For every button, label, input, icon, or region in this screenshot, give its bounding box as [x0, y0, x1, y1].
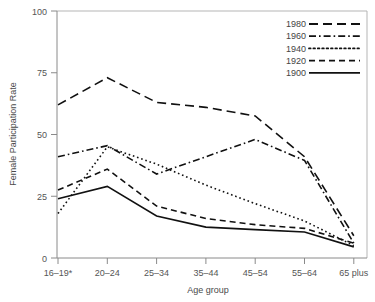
legend-label-1980: 1980 [286, 19, 306, 29]
x-tick-label-65-plus: 65 plus [339, 268, 369, 278]
x-axis-title: Age group [187, 285, 229, 295]
series-line-1920 [58, 169, 354, 243]
x-tick-label-16-19: 16–19* [44, 268, 73, 278]
legend-label-1960: 1960 [286, 31, 306, 41]
x-axis-tick-labels: 16–19* 20–24 25–34 35–44 45–54 55–64 65 … [44, 268, 369, 278]
plot-frame [57, 11, 367, 258]
x-tick-label-35-44: 35–44 [193, 268, 218, 278]
x-tick-label-45-54: 45–54 [243, 268, 268, 278]
y-axis-ticks [51, 11, 57, 258]
x-tick-label-20-24: 20–24 [95, 268, 120, 278]
series-line-1980 [58, 78, 354, 236]
legend-label-1940: 1940 [286, 44, 306, 54]
legend-label-1900: 1900 [286, 68, 306, 78]
series-line-1940 [58, 147, 354, 246]
y-tick-label-25: 25 [37, 192, 47, 202]
x-tick-label-25-34: 25–34 [144, 268, 169, 278]
y-tick-label-50: 50 [37, 130, 47, 140]
chart-legend: 19801960194019201900 [286, 19, 360, 78]
chart-container: 100 75 50 25 0 16–19* 20–24 25–34 35–44 … [0, 0, 375, 302]
y-tick-label-75: 75 [37, 68, 47, 78]
y-tick-label-100: 100 [32, 7, 47, 17]
series-layer [58, 78, 354, 247]
x-axis-ticks [58, 258, 354, 264]
series-line-1900 [58, 186, 354, 247]
y-tick-label-0: 0 [42, 254, 47, 264]
x-tick-label-55-64: 55–64 [292, 268, 317, 278]
legend-label-1920: 1920 [286, 56, 306, 66]
line-chart: 100 75 50 25 0 16–19* 20–24 25–34 35–44 … [0, 0, 375, 302]
y-axis-title: Female Participation Rate [8, 82, 18, 186]
y-axis-tick-labels: 100 75 50 25 0 [32, 7, 47, 264]
